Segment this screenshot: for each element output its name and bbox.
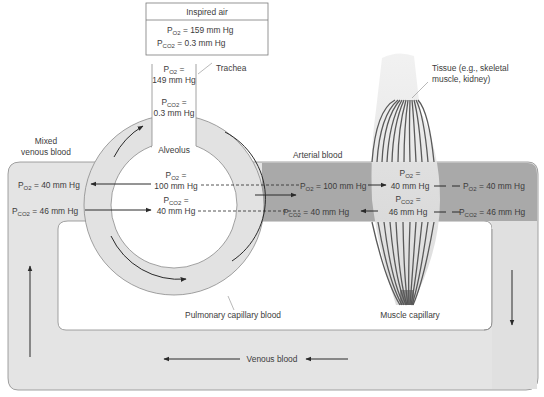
alveolus-pco2-value: 40 mm Hg <box>157 206 196 216</box>
tissue-label-2: muscle, kidney) <box>432 74 490 84</box>
gas-exchange-diagram: Inspired air PO2 = 159 mm Hg PCO2 = 0.3 … <box>0 0 544 397</box>
alveolus-po2-value: 100 mm Hg <box>154 181 198 191</box>
mixed-venous-label-1: Mixed <box>35 136 58 146</box>
tissue-label-1: Tissue (e.g., skeletal <box>432 63 509 73</box>
alveolus-label: Alveolus <box>158 145 190 155</box>
muscle-capillary-label: Muscle capillary <box>380 310 440 320</box>
arterial-label: Arterial blood <box>293 150 343 160</box>
tissue-pco2-value: 46 mm Hg <box>389 207 428 217</box>
tissue-po2-value: 40 mm Hg <box>391 181 430 191</box>
trachea-po2-value: 149 mm Hg <box>152 75 196 85</box>
pulmonary-capillary-label: Pulmonary capillary blood <box>185 310 281 320</box>
trachea-pco2-value: 0.3 mm Hg <box>154 108 195 118</box>
mixed-venous-label-2: venous blood <box>21 147 71 157</box>
inspired-air-title: Inspired air <box>186 7 228 17</box>
trachea-label: Trachea <box>216 63 247 73</box>
venous-blood-label: Venous blood <box>247 354 298 364</box>
